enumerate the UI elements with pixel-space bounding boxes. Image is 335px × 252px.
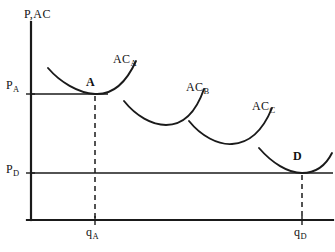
- y-tick-label-pa: PA: [6, 79, 19, 94]
- curve-label-ac-b-base: AC: [186, 80, 203, 94]
- curve-label-ac-c-sub: C: [269, 105, 275, 115]
- average-cost-curves-figure: P,AC PA PD qA qD ACA ACB ACC A D: [0, 0, 335, 252]
- curve-label-ac-a-base: AC: [113, 52, 130, 66]
- curve-label-ac-c: ACC: [252, 100, 275, 115]
- x-tick-label-qd-sub: D: [300, 231, 306, 241]
- y-tick-label-pd: PD: [6, 163, 19, 178]
- y-tick-label-pa-sub: A: [13, 84, 19, 94]
- point-label-a: A: [86, 76, 95, 88]
- x-tick-label-qa-sub: A: [92, 231, 98, 241]
- point-label-d: D: [293, 150, 302, 162]
- x-tick-label-qa: qA: [86, 226, 99, 241]
- curve-label-ac-a: ACA: [113, 53, 137, 68]
- curve-label-ac-a-sub: A: [130, 58, 136, 68]
- y-tick-label-pd-sub: D: [13, 168, 19, 178]
- curve-label-ac-b-sub: B: [203, 86, 209, 96]
- y-axis-label: P,AC: [24, 8, 51, 20]
- curve-label-ac-c-base: AC: [252, 99, 269, 113]
- curve-label-ac-b: ACB: [186, 81, 209, 96]
- chart-canvas: [0, 0, 335, 252]
- x-tick-label-qd: qD: [294, 226, 307, 241]
